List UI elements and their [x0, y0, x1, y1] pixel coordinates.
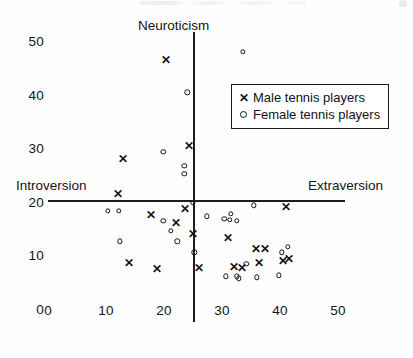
- legend-item-female: Female tennis players: [238, 106, 380, 123]
- x-tick-label: 0: [35, 303, 61, 318]
- x-axis-line: [48, 200, 345, 202]
- y-tick-label: 30: [18, 141, 44, 156]
- circle-marker-icon: [238, 111, 249, 118]
- x-tick-label: 10: [93, 303, 119, 318]
- axis-annotation-extraversion: Extraversion: [308, 178, 383, 193]
- x-tick-label: 50: [325, 303, 351, 318]
- legend-item-male: ✕ Male tennis players: [238, 89, 380, 106]
- y-tick-label: 20: [18, 195, 44, 210]
- y-tick-label: 50: [18, 34, 44, 49]
- scatter-plot-figure: Neuroticism Introversion Extraversion 01…: [0, 0, 413, 358]
- y-axis-line: [193, 32, 195, 322]
- cross-marker-icon: ✕: [238, 91, 249, 105]
- legend: ✕ Male tennis players Female tennis play…: [231, 84, 389, 129]
- y-tick-label: 40: [18, 88, 44, 103]
- legend-label-female: Female tennis players: [253, 107, 380, 122]
- axis-annotation-neuroticism: Neuroticism: [138, 18, 209, 33]
- axis-annotation-introversion: Introversion: [16, 178, 87, 193]
- x-tick-label: 30: [209, 303, 235, 318]
- y-tick-label: 10: [18, 248, 44, 263]
- cropped-header-artifact-right: [399, 0, 407, 7]
- legend-label-male: Male tennis players: [253, 90, 365, 105]
- cropped-header-artifact: [140, 1, 305, 5]
- x-tick-label: 40: [267, 303, 293, 318]
- x-tick-label: 20: [151, 303, 177, 318]
